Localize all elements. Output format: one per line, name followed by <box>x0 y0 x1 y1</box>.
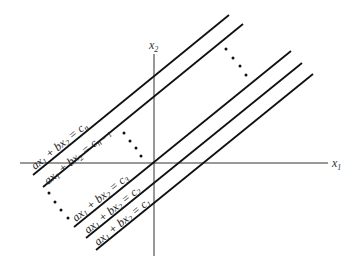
diagram-canvas: x1 x2 ax1 + bx2 = cn ax1 + bx2 = cn − 1 … <box>0 0 361 267</box>
x1-axis-label: x1 <box>331 156 341 172</box>
ellipsis-dots-upper-right <box>225 48 248 77</box>
x2-axis-label: x2 <box>148 38 158 54</box>
ellipsis-dots-lower-left <box>48 192 70 220</box>
ellipsis-dots-middle <box>123 132 143 158</box>
